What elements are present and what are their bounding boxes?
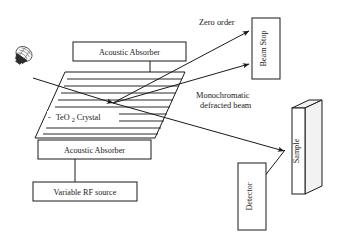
rf-source-label: Variable RF source	[54, 188, 117, 197]
absorber-bottom-label: Acoustic Absorber	[64, 146, 125, 155]
crystal-label-main: TeO	[56, 113, 70, 122]
acoustic-absorber-bottom: Acoustic Absorber	[38, 140, 151, 159]
monochromatic-annotation-line2: defracted beam	[200, 101, 252, 110]
sample-prism: Sample	[292, 100, 323, 194]
crystal-label-suffix: Crystal	[77, 113, 101, 122]
beam-stop: Beam Stop	[252, 18, 280, 79]
aotf-diagram: - TeO 2 Crystal Acoustic Absorber Acoust…	[0, 0, 337, 242]
teo2-crystal-slab: - TeO 2 Crystal	[35, 72, 185, 138]
absorber-top-label: Acoustic Absorber	[99, 48, 160, 57]
sample-label: Sample	[292, 138, 301, 163]
variable-rf-source: Variable RF source	[33, 182, 137, 201]
diagram-canvas: - TeO 2 Crystal Acoustic Absorber Acoust…	[0, 0, 337, 242]
monochromatic-beam-annotation: Monochromatic defracted beam	[196, 89, 282, 111]
detector: Detector	[238, 163, 266, 230]
detector-label: Detector	[245, 182, 254, 210]
acoustic-absorber-top: Acoustic Absorber	[73, 42, 186, 72]
light-bulb-icon	[11, 43, 35, 67]
zero-order-annotation: Zero order	[199, 18, 235, 27]
beam-stop-label: Beam Stop	[259, 30, 268, 66]
crystal-label-subscript: 2	[72, 116, 75, 123]
sample-right-face	[305, 100, 322, 194]
monochromatic-annotation-line1: Monochromatic	[196, 91, 250, 100]
crystal-label-prefix: -	[48, 113, 51, 122]
